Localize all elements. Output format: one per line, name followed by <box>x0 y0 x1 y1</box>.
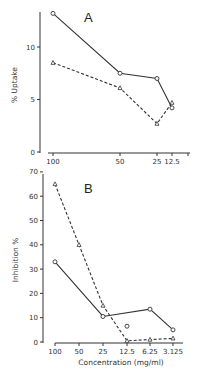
data-point-circle <box>148 307 152 311</box>
y-tick-label: 40 <box>29 241 38 249</box>
panel-label: A <box>84 10 93 25</box>
chart-a: 0510100502512.5A% Uptake <box>10 10 190 166</box>
x-tick-label: 25 <box>99 348 108 356</box>
y-tick-label: 10 <box>29 314 38 322</box>
y-tick-label: 10 <box>26 44 35 52</box>
series-line <box>53 13 172 108</box>
data-point-triangle <box>170 100 174 104</box>
series-dashed-triangles <box>53 182 175 343</box>
data-point-circle <box>118 71 122 75</box>
y-tick-label: 5 <box>31 96 35 104</box>
data-point-triangle <box>171 336 175 340</box>
series-solid-circles <box>51 11 174 110</box>
y-tick-label: 0 <box>34 339 38 347</box>
y-tick-label: 20 <box>29 290 38 298</box>
x-tick-label: 6.25 <box>142 348 158 356</box>
data-point-triangle <box>53 182 57 186</box>
x-tick-label: 12.5 <box>164 158 180 166</box>
data-point-circle <box>170 106 174 110</box>
y-axis-label: % Uptake <box>10 67 19 103</box>
x-tick-label: 100 <box>48 348 61 356</box>
x-tick-label: 50 <box>116 158 125 166</box>
y-tick-label: 30 <box>29 266 38 274</box>
series-isolated-circle <box>125 324 129 328</box>
y-tick-label: 60 <box>29 193 38 201</box>
data-point-circle <box>125 324 129 328</box>
data-point-triangle <box>77 243 81 247</box>
x-tick-label: 25 <box>153 158 162 166</box>
x-tick-label: 100 <box>46 158 59 166</box>
x-tick-label: 3.125 <box>163 348 183 356</box>
data-point-circle <box>53 260 57 264</box>
series-line <box>55 262 173 330</box>
panel-label: B <box>84 181 93 196</box>
data-point-triangle <box>101 303 105 307</box>
figure: 0510100502512.5A% Uptake0102030405060701… <box>0 0 197 376</box>
y-tick-label: 70 <box>29 168 38 176</box>
series-dashed-triangles <box>51 61 174 126</box>
x-tick-label: 12.5 <box>119 348 135 356</box>
data-point-circle <box>101 314 105 318</box>
chart-b: 010203040506070100502512.56.253.125BInhi… <box>11 168 183 367</box>
y-axis-label: Inhibition % <box>11 238 20 283</box>
y-tick-label: 50 <box>29 217 38 225</box>
data-point-triangle <box>118 86 122 90</box>
series-line <box>55 184 173 341</box>
data-point-circle <box>51 11 55 15</box>
x-tick-label: 50 <box>75 348 84 356</box>
data-point-circle <box>155 77 159 81</box>
data-point-triangle <box>148 337 152 341</box>
data-point-circle <box>171 328 175 332</box>
data-point-triangle <box>51 61 55 65</box>
series-line <box>53 63 172 124</box>
series-solid-circles <box>53 260 175 332</box>
y-tick-label: 0 <box>31 149 35 157</box>
x-axis-label: Concentration (mg/ml) <box>78 358 163 367</box>
